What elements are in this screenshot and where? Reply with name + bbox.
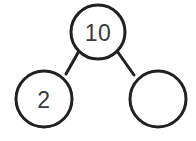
part-circle-left-label: 2 — [37, 87, 50, 113]
number-bond-canvas: 10 2 — [0, 0, 196, 141]
part-circle-right[interactable] — [130, 71, 186, 127]
whole-circle-label: 10 — [85, 20, 112, 46]
connector-left — [66, 51, 79, 74]
number-bond-diagram: 10 2 — [0, 0, 196, 141]
connector-right — [117, 51, 134, 75]
